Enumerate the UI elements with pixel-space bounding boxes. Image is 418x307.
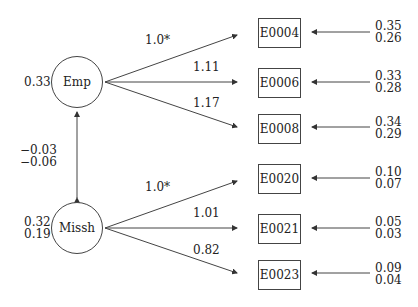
- err-2: 0.07: [375, 178, 402, 190]
- err-2: 0.04: [375, 274, 402, 286]
- indicator-box: E0008: [258, 114, 301, 144]
- loading-label: 1.11: [193, 61, 220, 74]
- loading-label: 1.01: [193, 207, 220, 220]
- loading-label: 1.17: [193, 97, 220, 110]
- loading-label: 1.0*: [145, 34, 170, 47]
- error-variance: 0.350.26: [375, 20, 402, 44]
- err-2: 0.28: [375, 82, 402, 94]
- latent-missh: Missh: [51, 202, 103, 254]
- path-lines: [0, 0, 418, 307]
- error-variance: 0.340.29: [375, 116, 402, 140]
- indicator-box: E0021: [258, 214, 301, 244]
- variance-2: 0.19: [24, 228, 51, 240]
- missh-variance: 0.32 0.19: [24, 216, 51, 240]
- indicator-box: E0006: [258, 68, 301, 98]
- error-variance: 0.330.28: [375, 70, 402, 94]
- err-2: 0.26: [375, 32, 402, 44]
- err-2: 0.29: [375, 128, 402, 140]
- indicator-box: E0004: [258, 18, 301, 48]
- latent-label: Missh: [59, 221, 95, 235]
- latent-label: Emp: [63, 75, 91, 89]
- err-2: 0.03: [375, 228, 402, 240]
- error-variance: 0.100.07: [375, 166, 402, 190]
- indicator-box: E0020: [258, 164, 301, 194]
- error-variance: 0.050.03: [375, 216, 402, 240]
- loading-label: 1.0*: [145, 181, 170, 194]
- error-variance: 0.090.04: [375, 262, 402, 286]
- latent-emp: Emp: [51, 56, 103, 108]
- cov-2: −0.06: [20, 156, 57, 168]
- loading-label: 0.82: [193, 244, 220, 257]
- covariance-label: −0.03 −0.06: [20, 144, 57, 168]
- emp-variance: 0.33: [24, 76, 51, 89]
- indicator-box: E0023: [258, 260, 301, 290]
